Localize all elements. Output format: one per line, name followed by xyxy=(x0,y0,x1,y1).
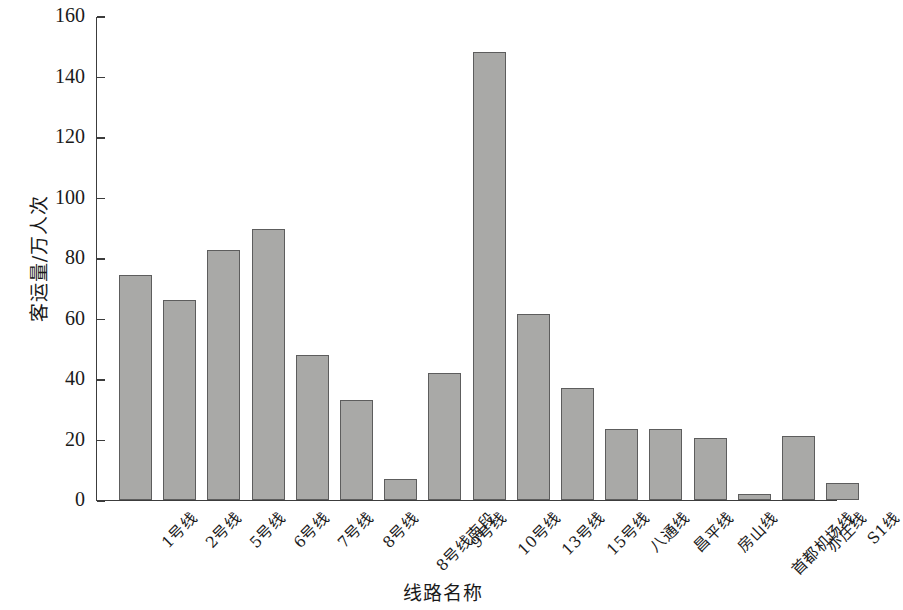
x-axis-tick-label: 10号线 xyxy=(512,506,565,559)
bar xyxy=(561,388,594,500)
y-axis-tick-label: 80 xyxy=(25,246,85,269)
y-axis-tick-mark xyxy=(97,500,105,502)
x-axis-tick-label: 7号线 xyxy=(332,506,378,552)
bars-container xyxy=(97,17,837,500)
bar xyxy=(252,229,285,500)
y-axis-tick-label: 140 xyxy=(25,65,85,88)
bar xyxy=(340,400,373,500)
x-axis-tick-label: 5号线 xyxy=(243,506,289,552)
y-axis-tick-label: 0 xyxy=(25,488,85,511)
x-axis-tick-label: 昌平线 xyxy=(687,506,737,556)
bar xyxy=(473,52,506,500)
x-axis-tick-label: 15号线 xyxy=(600,506,653,559)
x-axis-tick-label: S1线 xyxy=(861,506,903,548)
bar xyxy=(119,275,152,500)
bar xyxy=(428,373,461,500)
bar xyxy=(384,479,417,500)
x-axis-title: 线路名称 xyxy=(0,578,846,605)
bar xyxy=(738,494,771,500)
bar xyxy=(517,314,550,500)
y-axis-tick-label: 120 xyxy=(25,125,85,148)
x-axis-tick-label: 2号线 xyxy=(199,506,245,552)
bar xyxy=(605,429,638,500)
y-axis-tick-label: 60 xyxy=(25,307,85,330)
bar xyxy=(296,355,329,500)
y-axis-tick-label: 20 xyxy=(25,428,85,451)
bar xyxy=(163,300,196,500)
y-axis-tick-label: 40 xyxy=(25,367,85,390)
plot-area: 020406080100120140160 xyxy=(96,17,837,501)
bar xyxy=(694,438,727,500)
x-axis-tick-label: 1号线 xyxy=(155,506,201,552)
bar xyxy=(782,436,815,500)
x-axis-tick-label: 6号线 xyxy=(288,506,334,552)
x-axis-tick-label: 8号线 xyxy=(376,506,422,552)
x-axis-tick-label: 13号线 xyxy=(556,506,609,559)
y-axis-tick-label: 100 xyxy=(25,186,85,209)
bar xyxy=(207,250,240,500)
x-axis-tick-label: 房山线 xyxy=(731,506,781,556)
bar xyxy=(826,483,859,500)
bar xyxy=(649,429,682,500)
x-axis-tick-label: 八通线 xyxy=(643,506,693,556)
y-axis-tick-label: 160 xyxy=(25,4,85,27)
